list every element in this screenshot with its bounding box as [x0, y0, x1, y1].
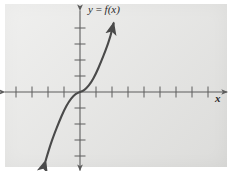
x-axis-label: x	[215, 92, 221, 104]
graph-figure: y = f(x) x	[0, 0, 232, 171]
function-label-fx: f(x)	[105, 3, 120, 15]
coordinate-plot	[0, 0, 232, 171]
function-label: y = f(x)	[88, 3, 120, 15]
function-label-equals: =	[93, 3, 105, 15]
